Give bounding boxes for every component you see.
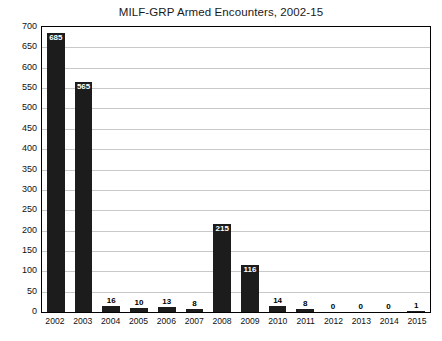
y-axis-tick-label: 700 — [0, 22, 37, 31]
bar[interactable]: 565 — [75, 82, 93, 312]
x-axis-tick-label: 2007 — [180, 315, 208, 331]
bar-slot: 565 — [70, 27, 98, 312]
bars-layer: 68556516101382151161480001 — [42, 27, 430, 312]
bar[interactable]: 10 — [130, 308, 148, 312]
x-axis-tick-label: 2006 — [152, 315, 180, 331]
y-axis-tick-label: 300 — [0, 184, 37, 193]
y-axis-tick-label: 50 — [0, 286, 37, 295]
y-axis-tick-label: 600 — [0, 62, 37, 71]
bar-slot: 13 — [153, 27, 181, 312]
bar-value-label: 13 — [162, 298, 171, 306]
bar-value-label: 215 — [215, 225, 228, 233]
x-axis-tick-label: 2004 — [97, 315, 125, 331]
y-axis-tick-label: 350 — [0, 164, 37, 173]
bar-slot: 0 — [347, 27, 375, 312]
x-axis-tick-label: 2013 — [347, 315, 375, 331]
bar-value-label: 8 — [192, 300, 196, 308]
y-axis-tick-label: 650 — [0, 42, 37, 51]
bar-value-label: 1 — [414, 302, 418, 310]
y-axis-tick-label: 0 — [0, 307, 37, 316]
y-axis-tick-label: 500 — [0, 103, 37, 112]
bar[interactable]: 8 — [186, 309, 204, 312]
x-axis-tick-label: 2009 — [236, 315, 264, 331]
y-axis-tick-label: 200 — [0, 225, 37, 234]
bar-slot: 1 — [402, 27, 430, 312]
bar-slot: 0 — [375, 27, 403, 312]
bar-chart: MILF-GRP Armed Encounters, 2002-15 05010… — [0, 0, 442, 341]
bar[interactable]: 13 — [158, 307, 176, 312]
bar-value-label: 116 — [243, 266, 256, 274]
bar[interactable]: 14 — [269, 306, 287, 312]
bar-value-label: 0 — [331, 303, 335, 311]
y-axis-tick-label: 150 — [0, 245, 37, 254]
y-axis-tick-label: 250 — [0, 205, 37, 214]
y-axis: 0501001502002503003504004505005506006507… — [0, 26, 37, 313]
y-axis-tick-label: 550 — [0, 83, 37, 92]
bar-value-label: 14 — [273, 297, 282, 305]
bar[interactable]: 8 — [296, 309, 314, 312]
bar-value-label: 10 — [135, 299, 144, 307]
bar[interactable]: 1 — [407, 311, 425, 313]
bar-slot: 685 — [42, 27, 70, 312]
x-axis-tick-label: 2008 — [208, 315, 236, 331]
bar-value-label: 8 — [303, 300, 307, 308]
bar-slot: 0 — [319, 27, 347, 312]
y-axis-tick-label: 450 — [0, 123, 37, 132]
bar-value-label: 565 — [77, 83, 90, 91]
y-axis-tick-label: 100 — [0, 266, 37, 275]
x-axis-tick-label: 2003 — [69, 315, 97, 331]
bar-value-label: 685 — [49, 34, 62, 42]
plot-area: 68556516101382151161480001 — [41, 26, 431, 313]
bar-slot: 8 — [291, 27, 319, 312]
bar[interactable]: 116 — [241, 265, 259, 312]
x-axis-tick-label: 2002 — [41, 315, 69, 331]
bar-value-label: 0 — [359, 303, 363, 311]
bar[interactable]: 215 — [213, 224, 231, 312]
bar-slot: 116 — [236, 27, 264, 312]
bar-slot: 10 — [125, 27, 153, 312]
x-axis-tick-label: 2014 — [375, 315, 403, 331]
bar-slot: 8 — [181, 27, 209, 312]
bar-value-label: 16 — [107, 297, 116, 305]
bar-slot: 16 — [97, 27, 125, 312]
x-axis-tick-label: 2010 — [264, 315, 292, 331]
bar[interactable]: 16 — [102, 306, 120, 313]
x-axis-tick-label: 2011 — [292, 315, 320, 331]
chart-title: MILF-GRP Armed Encounters, 2002-15 — [0, 6, 442, 18]
bar-value-label: 0 — [386, 303, 390, 311]
x-axis-tick-label: 2015 — [403, 315, 431, 331]
x-axis-tick-label: 2005 — [125, 315, 153, 331]
x-axis: 2002200320042005200620072008200920102011… — [41, 315, 431, 331]
x-axis-tick-label: 2012 — [320, 315, 348, 331]
y-axis-tick-label: 400 — [0, 144, 37, 153]
bar[interactable]: 685 — [47, 33, 65, 312]
bar-slot: 14 — [264, 27, 292, 312]
bar-slot: 215 — [208, 27, 236, 312]
